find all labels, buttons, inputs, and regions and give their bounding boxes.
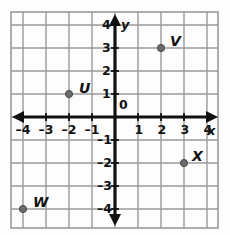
point-U <box>65 90 72 97</box>
y-tick-label-3: 3 <box>102 42 111 55</box>
x-tick-label-3: 3 <box>181 124 190 137</box>
y-tick-label--2: –2 <box>97 157 112 170</box>
coordinate-plane-figure: –4–3–2–11234–4–3–2–112340yxUVWX <box>0 0 230 235</box>
origin-label: 0 <box>119 99 128 112</box>
point-label-U: U <box>79 81 90 95</box>
x-tick-label--4: –4 <box>16 124 31 137</box>
point-label-W: W <box>33 195 48 209</box>
point-W <box>19 205 26 212</box>
x-tick-label--3: –3 <box>39 124 54 137</box>
y-tick-label-2: 2 <box>102 65 111 78</box>
point-X <box>180 159 187 166</box>
y-tick-label--1: –1 <box>97 134 112 147</box>
point-label-V: V <box>170 34 181 48</box>
y-tick-label-1: 1 <box>102 88 111 101</box>
x-axis-label: x <box>207 124 215 137</box>
y-tick-label-4: 4 <box>102 19 111 32</box>
point-V <box>157 44 164 51</box>
x-tick-label-2: 2 <box>158 124 167 137</box>
x-tick-label-1: 1 <box>135 124 144 137</box>
point-label-X: X <box>192 149 203 163</box>
y-tick-label--4: –4 <box>97 203 112 216</box>
y-axis-label: y <box>121 18 129 31</box>
y-tick-label--3: –3 <box>97 180 112 193</box>
x-tick-label--2: –2 <box>62 124 77 137</box>
